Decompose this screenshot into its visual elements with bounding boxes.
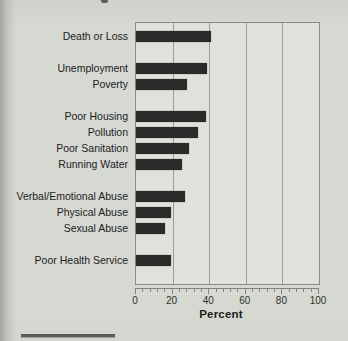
category-label: Poor Housing bbox=[0, 109, 128, 123]
bar bbox=[136, 159, 182, 170]
scanned-page: Death or LossUnemploymentPovertyPoor Hou… bbox=[0, 0, 348, 341]
bar bbox=[136, 111, 206, 122]
bar bbox=[136, 63, 207, 74]
minor-tick bbox=[164, 289, 165, 292]
bar bbox=[136, 79, 187, 90]
minor-tick bbox=[274, 289, 275, 292]
major-tick bbox=[208, 289, 209, 294]
x-axis-title: Percent bbox=[135, 308, 307, 320]
category-label: Poor Sanitation bbox=[0, 141, 128, 155]
gridline bbox=[246, 23, 247, 284]
major-tick bbox=[281, 289, 282, 294]
category-label: Running Water bbox=[0, 157, 128, 171]
x-tick-label: 40 bbox=[193, 295, 223, 306]
category-label: Unemployment bbox=[0, 61, 128, 75]
x-axis-line bbox=[135, 288, 319, 289]
minor-tick bbox=[194, 289, 195, 292]
minor-tick bbox=[142, 289, 143, 292]
minor-tick bbox=[186, 289, 187, 292]
footnote-rule bbox=[21, 334, 115, 337]
category-label: Poor Health Service bbox=[0, 253, 128, 267]
bar bbox=[136, 143, 189, 154]
minor-tick bbox=[179, 289, 180, 292]
category-label: Verbal/Emotional Abuse bbox=[0, 189, 128, 203]
x-tick-label: 20 bbox=[157, 295, 187, 306]
x-tick-label: 60 bbox=[230, 295, 260, 306]
x-tick-label: 0 bbox=[120, 295, 150, 306]
minor-tick bbox=[223, 289, 224, 292]
major-tick bbox=[318, 289, 319, 294]
bar bbox=[136, 127, 198, 138]
category-label: Physical Abuse bbox=[0, 205, 128, 219]
minor-tick bbox=[201, 289, 202, 292]
bar bbox=[136, 207, 171, 218]
minor-tick bbox=[259, 289, 260, 292]
minor-tick bbox=[267, 289, 268, 292]
category-label: Death or Loss bbox=[0, 29, 128, 43]
bar bbox=[136, 255, 171, 266]
minor-tick bbox=[237, 289, 238, 292]
minor-tick bbox=[252, 289, 253, 292]
major-tick bbox=[135, 289, 136, 294]
bar bbox=[136, 223, 165, 234]
minor-tick bbox=[157, 289, 158, 292]
category-label: Pollution bbox=[0, 125, 128, 139]
minor-tick bbox=[150, 289, 151, 292]
cropped-text-fragment bbox=[101, 0, 108, 3]
major-tick bbox=[172, 289, 173, 294]
gridline bbox=[282, 23, 283, 284]
major-tick bbox=[245, 289, 246, 294]
minor-tick bbox=[303, 289, 304, 292]
minor-tick bbox=[289, 289, 290, 292]
x-tick-label: 100 bbox=[303, 295, 333, 306]
x-tick-label: 80 bbox=[266, 295, 296, 306]
minor-tick bbox=[296, 289, 297, 292]
minor-tick bbox=[216, 289, 217, 292]
category-label: Poverty bbox=[0, 77, 128, 91]
minor-tick bbox=[230, 289, 231, 292]
minor-tick bbox=[311, 289, 312, 292]
gridline bbox=[209, 23, 210, 284]
category-label: Sexual Abuse bbox=[0, 221, 128, 235]
bar bbox=[136, 31, 211, 42]
bar bbox=[136, 191, 185, 202]
